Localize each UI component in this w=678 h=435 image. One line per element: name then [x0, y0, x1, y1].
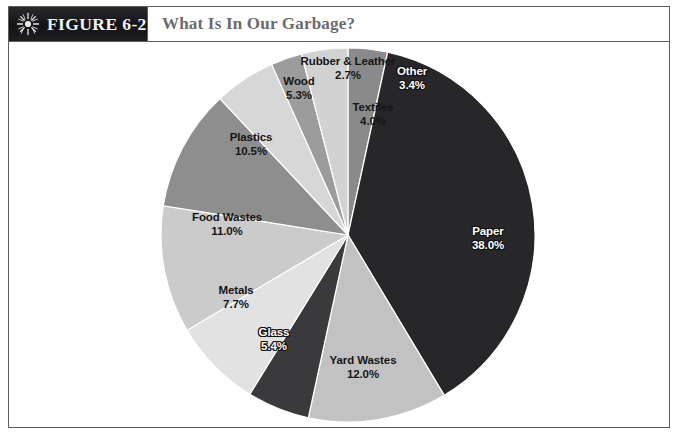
sunburst-icon: [16, 12, 40, 36]
pie-chart-svg: [8, 42, 670, 428]
pie-chart: Other3.4%Paper38.0%Yard Wastes12.0%Glass…: [8, 42, 670, 428]
pie-slice-group: [161, 48, 535, 422]
figure-title: What Is In Our Garbage?: [162, 14, 355, 34]
figure-number-badge: Figure 6-2: [9, 7, 147, 41]
figure-number-label: Figure 6-2: [47, 14, 147, 35]
figure-header: Figure 6-2 What Is In Our Garbage?: [8, 6, 670, 42]
figure-title-cell: What Is In Our Garbage?: [147, 7, 669, 41]
figure-root: Figure 6-2 What Is In Our Garbage? Other…: [0, 0, 678, 435]
